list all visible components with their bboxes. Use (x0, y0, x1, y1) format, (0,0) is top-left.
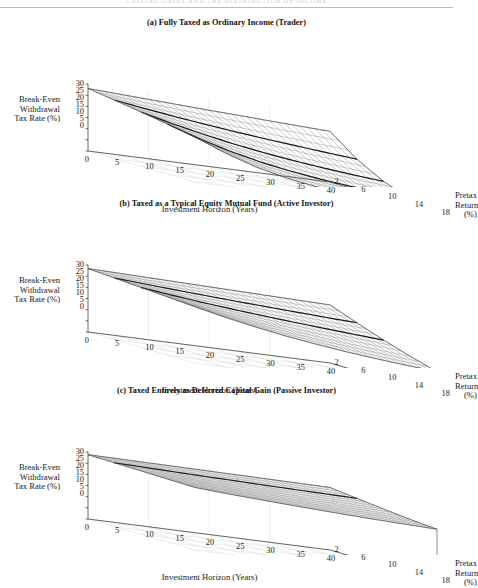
x-axis-tick: 35 (297, 550, 305, 559)
y-axis-tick: 6 (361, 553, 365, 562)
y-axis-tick: 2 (335, 177, 339, 186)
y-axis-tick: 6 (361, 185, 365, 194)
y-axis-title: PretaxReturn(%) (455, 191, 478, 220)
x-axis-tick: 25 (236, 355, 244, 364)
header-rule (0, 7, 453, 8)
x-axis-tick: 15 (176, 534, 184, 543)
y-axis-title-line: (%) (455, 210, 478, 220)
x-axis-tick: 30 (266, 546, 274, 555)
x-axis-tick: 15 (176, 166, 184, 175)
z-axis-title-line: Tax Rate (%) (2, 114, 60, 124)
x-axis-tick: 0 (85, 155, 89, 164)
x-axis-tick: 35 (297, 363, 305, 372)
z-axis-title: Break-EvenWithdrawalTax Rate (%) (2, 463, 60, 492)
x-axis-tick: 30 (266, 178, 274, 187)
figure-panel-c: (c) Taxed Entirely as Deferred Capital G… (0, 386, 453, 555)
x-axis-tick: 20 (206, 170, 214, 179)
z-axis-tick-labels: 302520151050 (62, 80, 84, 129)
y-axis-tick: 10 (388, 560, 396, 569)
z-axis-title-line: Tax Rate (%) (2, 482, 60, 492)
z-axis-title-line: Tax Rate (%) (2, 295, 60, 305)
x-axis-tick: 10 (145, 162, 153, 171)
x-axis-tick: 5 (115, 339, 119, 348)
x-axis-tick: 40 (327, 367, 335, 376)
x-axis-tick: 10 (145, 530, 153, 539)
x-axis-tick: 20 (206, 538, 214, 547)
panel-a-title: (a) Fully Taxed as Ordinary Income (Trad… (0, 18, 453, 27)
x-axis-tick: 15 (176, 347, 184, 356)
x-axis-tick: 10 (145, 343, 153, 352)
z-axis-tick: 0 (62, 303, 84, 310)
y-axis-tick: 2 (335, 358, 339, 367)
y-axis-title: PretaxReturn(%) (455, 559, 478, 588)
y-axis-tick: 6 (361, 366, 365, 375)
y-axis-tick: 2 (335, 545, 339, 554)
panel-c-surface-plot: 302520151050Break-EvenWithdrawalTax Rate… (0, 395, 453, 555)
x-axis-tick: 25 (236, 174, 244, 183)
panel-c-title: (c) Taxed Entirely as Deferred Capital G… (0, 386, 453, 395)
z-axis-tick-labels: 302520151050 (62, 448, 84, 497)
x-axis-tick: 5 (115, 158, 119, 167)
figure-panel-a: (a) Fully Taxed as Ordinary Income (Trad… (0, 18, 453, 187)
x-axis-tick: 40 (327, 554, 335, 563)
panel-b-title: (b) Taxed as a Typical Equity Mutual Fun… (0, 199, 453, 208)
z-axis-tick: 0 (62, 490, 84, 497)
y-axis-title-line: (%) (455, 578, 478, 588)
running-head-text: CAPITAL GAINS AND THE DISTRIBUTION OF IN… (0, 0, 453, 4)
figure-panel-b: (b) Taxed as a Typical Equity Mutual Fun… (0, 199, 453, 368)
x-axis-tick: 25 (236, 542, 244, 551)
z-axis-title: Break-EvenWithdrawalTax Rate (%) (2, 95, 60, 124)
x-axis-tick: 0 (85, 336, 89, 345)
x-axis-tick: 0 (85, 523, 89, 532)
x-axis-tick: 40 (327, 186, 335, 195)
z-axis-title: Break-EvenWithdrawalTax Rate (%) (2, 276, 60, 305)
y-axis-tick: 10 (388, 373, 396, 382)
panel-b-surface-plot: 302520151050Break-EvenWithdrawalTax Rate… (0, 208, 453, 368)
x-axis-tick: 5 (115, 526, 119, 535)
x-axis-tick: 30 (266, 359, 274, 368)
panel-a-surface-plot: 302520151050Break-EvenWithdrawalTax Rate… (0, 27, 453, 187)
running-head: CAPITAL GAINS AND THE DISTRIBUTION OF IN… (0, 0, 453, 7)
x-axis-tick: 35 (297, 182, 305, 191)
x-axis-tick: 20 (206, 351, 214, 360)
x-axis-title: Investment Horizon (Years) (0, 572, 453, 582)
y-axis-title-line: (%) (455, 391, 478, 401)
y-axis-title: PretaxReturn(%) (455, 372, 478, 401)
z-axis-tick-labels: 302520151050 (62, 261, 84, 310)
z-axis-tick: 0 (62, 122, 84, 129)
